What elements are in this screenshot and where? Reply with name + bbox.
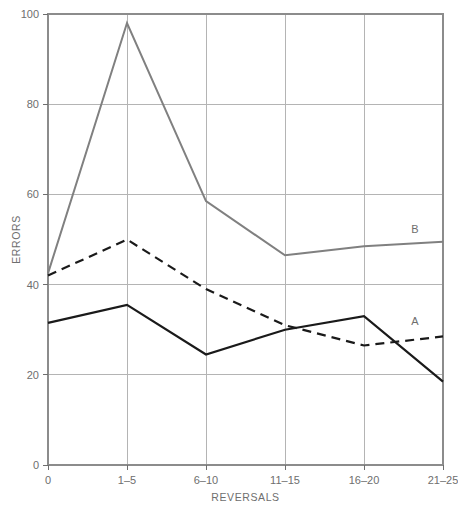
x-tick-label: 6–10 — [194, 474, 218, 486]
y-tick-label: 80 — [27, 98, 39, 110]
y-tick-label: 100 — [21, 8, 39, 20]
y-tick-label: 60 — [27, 188, 39, 200]
x-tick-label: 16–20 — [349, 474, 380, 486]
plot-frame — [48, 14, 443, 465]
y-axis: 020406080100 — [21, 8, 48, 471]
chart-canvas: 02040608010001–56–1011–1516–2021–25REVER… — [0, 0, 458, 515]
x-axis-title: REVERSALS — [211, 491, 279, 503]
y-tick-label: 20 — [27, 369, 39, 381]
series-label-b: B — [411, 223, 418, 235]
line-chart: 02040608010001–56–1011–1516–2021–25REVER… — [0, 0, 458, 515]
x-tick-label: 0 — [45, 474, 51, 486]
x-axis: 01–56–1011–1516–2021–25 — [45, 465, 458, 486]
x-tick-label: 11–15 — [270, 474, 300, 486]
x-tick-label: 21–25 — [428, 474, 458, 486]
y-tick-label: 0 — [33, 459, 39, 471]
y-tick-label: 40 — [27, 279, 39, 291]
series-line-B — [48, 23, 443, 273]
y-axis-title: ERRORS — [10, 215, 22, 264]
x-tick-label: 1–5 — [118, 474, 136, 486]
series-label-a: A — [411, 315, 419, 327]
series-line-A — [48, 240, 443, 346]
series-labels: BA — [411, 223, 419, 328]
series-group — [48, 23, 443, 382]
plot-border — [48, 14, 443, 465]
grid-lines — [48, 14, 443, 465]
